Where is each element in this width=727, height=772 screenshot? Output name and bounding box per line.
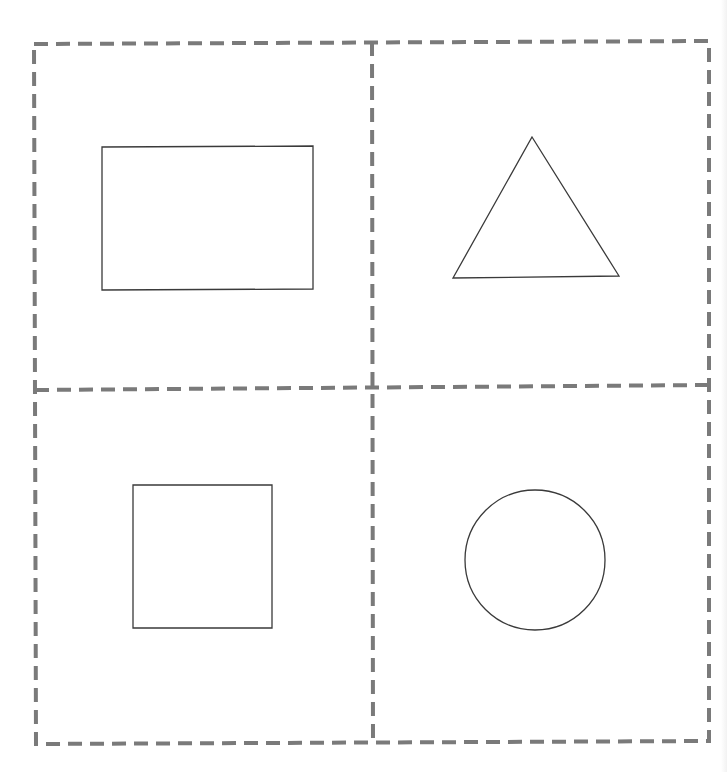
shape-grid-diagram — [0, 0, 727, 772]
right-edge-shadow — [721, 0, 727, 772]
